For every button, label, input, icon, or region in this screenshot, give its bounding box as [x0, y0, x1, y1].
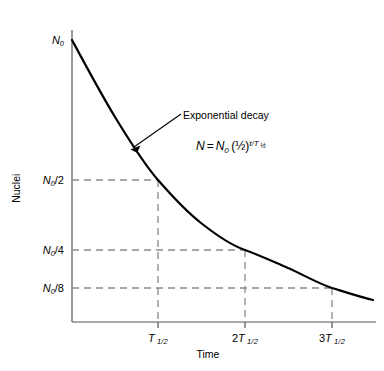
curve-annotation-label: Exponential decay: [183, 110, 269, 121]
y-axis-title: Nuclei: [11, 158, 22, 218]
y-tick-label-n0-over-8: N0/8: [10, 283, 64, 296]
y-tick-label-n0: N0: [16, 35, 64, 48]
x-tick-subscript: 1/2: [334, 337, 345, 346]
decay-formula: N=N0 (½)t/T ½: [196, 140, 266, 155]
y-tick-label-n0-over-4: N0/4: [10, 245, 64, 258]
x-tick-label-t-half: T 1/2: [130, 333, 186, 346]
x-tick-subscript: 1/2: [247, 337, 258, 346]
exponential-decay-figure: N0 N0/2 N0/4 N0/8 T 1/2 2T 1/2 3T 1/2 Ti…: [0, 0, 384, 371]
annotation-leader-line: [134, 114, 181, 147]
x-tick-label-2t-half: 2T 1/2: [217, 333, 273, 346]
decay-curve: [72, 40, 373, 300]
y-tick-subscript-0: 0: [60, 39, 64, 48]
x-axis-title: Time: [148, 349, 268, 360]
x-tick-label-3t-half: 3T 1/2: [304, 333, 360, 346]
x-tick-subscript: 1/2: [157, 337, 168, 346]
